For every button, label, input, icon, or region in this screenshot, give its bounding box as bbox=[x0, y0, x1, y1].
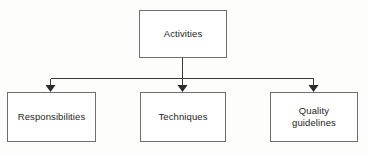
node-quality-guidelines: Quality guidelines bbox=[270, 92, 358, 142]
arrowhead-techniques bbox=[178, 85, 188, 92]
arrowhead-responsibilities bbox=[46, 85, 56, 92]
node-responsibilities: Responsibilities bbox=[7, 92, 96, 142]
node-activities-label: Activities bbox=[162, 28, 204, 40]
arrowhead-quality-guidelines bbox=[309, 85, 319, 92]
diagram-canvas: Activities Responsibilities Techniques Q… bbox=[0, 0, 368, 157]
node-activities: Activities bbox=[139, 10, 227, 58]
node-responsibilities-label: Responsibilities bbox=[16, 111, 88, 123]
node-techniques: Techniques bbox=[140, 92, 226, 142]
node-techniques-label: Techniques bbox=[156, 111, 209, 123]
node-quality-guidelines-label: Quality guidelines bbox=[290, 105, 338, 128]
